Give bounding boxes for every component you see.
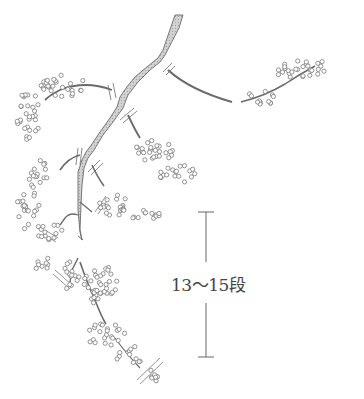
dimension-label: 13〜15段	[171, 271, 245, 296]
right-branch	[163, 63, 315, 102]
flower-clusters	[15, 59, 326, 383]
main-stem	[78, 15, 183, 240]
lower-right-shoot	[88, 160, 104, 186]
branch-diagram	[0, 0, 364, 399]
mid-right-branch	[120, 108, 140, 138]
mid-left-branch	[60, 148, 82, 170]
